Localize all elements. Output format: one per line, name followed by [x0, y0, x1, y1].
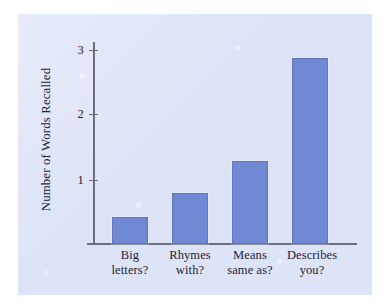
y-tick-label-3: 3: [64, 44, 84, 57]
y-tick-mark-1: [89, 180, 98, 181]
chart-panel: Number of Words Recalled 3 2 1 Big lette…: [18, 14, 372, 295]
x-label-line-1: Describes: [278, 248, 346, 263]
bar-means-same-as: [232, 161, 268, 244]
y-axis-title: Number of Words Recalled: [39, 45, 54, 235]
x-label-line-1: Rhymes: [160, 248, 220, 263]
figure-root: Number of Words Recalled 3 2 1 Big lette…: [0, 0, 388, 308]
y-tick-label-1: 1: [64, 174, 84, 187]
x-label-line-2: you?: [278, 263, 346, 278]
y-tick-mark-3: [89, 50, 98, 51]
bar-rhymes-with: [172, 193, 208, 244]
x-label-line-2: letters?: [100, 263, 160, 278]
x-tick-label-big-letters: Big letters?: [100, 248, 160, 278]
y-tick-label-2: 2: [64, 108, 84, 121]
y-axis-line: [93, 42, 95, 244]
x-label-line-1: Big: [100, 248, 160, 263]
x-tick-label-describes-you: Describes you?: [278, 248, 346, 278]
y-tick-mark-2: [89, 114, 98, 115]
x-tick-label-rhymes-with: Rhymes with?: [160, 248, 220, 278]
x-label-line-2: with?: [160, 263, 220, 278]
x-label-line-2: same as?: [220, 263, 280, 278]
bar-describes-you: [292, 58, 328, 244]
x-label-line-1: Means: [220, 248, 280, 263]
x-tick-label-means-same-as: Means same as?: [220, 248, 280, 278]
plot-area: Number of Words Recalled 3 2 1 Big lette…: [18, 14, 372, 295]
bar-big-letters: [112, 217, 148, 244]
